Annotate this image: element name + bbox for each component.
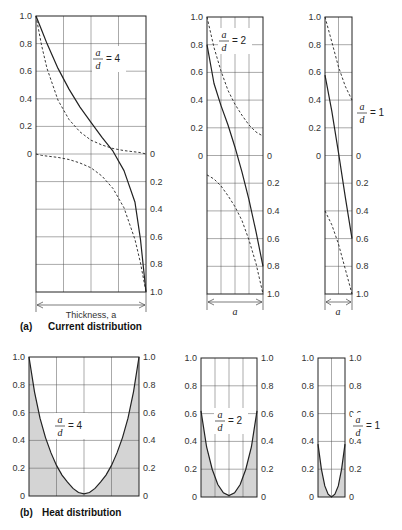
chart-a-1: 1.00.80.60.40.2000.20.40.60.81.0ad= 4: [19, 11, 162, 297]
ratio-numerator: a: [360, 101, 365, 112]
left-tick-label: 0.4: [308, 95, 321, 105]
ratio-numerator: a: [222, 29, 227, 40]
left-tick-label: 0.6: [308, 67, 321, 77]
panel-a-letter: (a): [20, 321, 32, 332]
left-tick-label: 0.4: [12, 435, 25, 445]
ratio-label: ad= 2: [214, 408, 248, 434]
ratio-label: ad= 2: [218, 28, 252, 54]
left-tick-label: 1.0: [301, 353, 314, 363]
left-tick-label: 0.6: [19, 66, 32, 76]
panel-b-letter: (b): [20, 507, 33, 518]
left-tick-label: 0.6: [190, 67, 203, 77]
left-tick-label: 0.8: [308, 40, 321, 50]
panel-b-caption: Heat distribution: [42, 507, 121, 518]
right-tick-label: 0.8: [356, 261, 369, 271]
chart-b-4: 1.00.80.60.40.201.00.80.60.40.20ad= 4: [12, 352, 155, 501]
ratio-value: = 2: [228, 415, 243, 426]
left-tick-label: 0.2: [190, 123, 203, 133]
left-tick-label: 0.2: [184, 464, 197, 474]
left-tick-label: 0.4: [301, 436, 314, 446]
right-tick-label: 0: [143, 491, 148, 501]
right-tick-label: 0.4: [356, 206, 369, 216]
right-tick-label: 0.4: [150, 204, 163, 214]
left-tick-label: 0: [20, 491, 25, 501]
left-tick-label: 0: [27, 149, 32, 159]
left-tick-label: 0.4: [19, 94, 32, 104]
right-tick-label: 1.0: [143, 352, 156, 362]
thickness-dimension-1: [36, 292, 146, 312]
panel-a-caption: Current distribution: [48, 321, 142, 332]
left-tick-label: 0: [192, 492, 197, 502]
right-tick-label: 0.6: [267, 234, 280, 244]
left-tick-label: 0.2: [19, 121, 32, 131]
ratio-numerator: a: [58, 414, 63, 425]
ratio-label: ad= 4: [54, 413, 88, 439]
chart-a-2: 1.00.80.60.40.2000.20.40.60.81.0ad= 2: [190, 12, 279, 299]
right-tick-label: 0.8: [143, 380, 156, 390]
right-tick-label: 0: [349, 492, 354, 502]
ratio-value: = 2: [232, 35, 247, 46]
chart-b-5: 1.00.80.60.40.201.00.80.60.40.20ad= 2: [184, 353, 273, 502]
ratio-value: = 1: [366, 420, 381, 431]
right-tick-label: 0.2: [349, 464, 362, 474]
right-tick-label: 1.0: [356, 289, 369, 299]
ratio-value: = 4: [106, 53, 121, 64]
chart-b-6: 1.00.80.60.40.201.00.80.60.40.20ad= 1: [301, 353, 386, 502]
left-tick-label: 0.4: [184, 436, 197, 446]
right-tick-label: 0.6: [356, 234, 369, 244]
right-tick-label: 0.4: [261, 436, 274, 446]
ratio-value: = 1: [370, 107, 385, 118]
right-tick-label: 0.4: [143, 435, 156, 445]
right-tick-label: 0.6: [261, 409, 274, 419]
right-tick-label: 1.0: [267, 289, 280, 299]
right-tick-label: 0.2: [356, 178, 369, 188]
figure: 1.00.80.60.40.2000.20.40.60.81.0ad= 41.0…: [0, 0, 402, 530]
ratio-label: ad= 1: [356, 100, 390, 126]
left-tick-label: 0.2: [12, 463, 25, 473]
left-tick-label: 0.6: [12, 408, 25, 418]
ratio-numerator: a: [218, 409, 223, 420]
ratio-numerator: a: [96, 47, 101, 58]
left-tick-label: 0.6: [301, 409, 314, 419]
width-label-3: a: [336, 306, 341, 317]
left-tick-label: 0.8: [184, 381, 197, 391]
right-tick-label: 0.6: [150, 232, 163, 242]
ratio-value: = 4: [68, 420, 83, 431]
right-tick-label: 0.8: [150, 259, 163, 269]
left-tick-label: 1.0: [190, 12, 203, 22]
right-tick-label: 0: [267, 151, 272, 161]
right-tick-label: 0.4: [267, 206, 280, 216]
right-tick-label: 0.6: [143, 408, 156, 418]
right-tick-label: 0.8: [349, 381, 362, 391]
right-tick-label: 0: [356, 151, 361, 161]
right-tick-label: 0: [261, 492, 266, 502]
left-tick-label: 0.6: [184, 409, 197, 419]
left-tick-label: 0.8: [19, 39, 32, 49]
right-tick-label: 0: [150, 149, 155, 159]
left-tick-label: 0.8: [12, 380, 25, 390]
left-tick-label: 1.0: [308, 12, 321, 22]
right-tick-label: 0.2: [150, 177, 163, 187]
thickness-label: Thickness, a: [66, 310, 117, 320]
left-tick-label: 0.8: [190, 40, 203, 50]
left-tick-label: 0.4: [190, 95, 203, 105]
ratio-numerator: a: [356, 414, 361, 425]
left-tick-label: 0.2: [308, 123, 321, 133]
right-tick-label: 0.8: [267, 261, 280, 271]
right-tick-label: 1.0: [349, 353, 362, 363]
left-tick-label: 1.0: [12, 352, 25, 362]
left-tick-label: 0.2: [301, 464, 314, 474]
charts-layer: 1.00.80.60.40.2000.20.40.60.81.0ad= 41.0…: [12, 11, 390, 502]
right-tick-label: 0.8: [261, 381, 274, 391]
ratio-label: ad= 4: [92, 46, 126, 72]
left-tick-label: 0.8: [301, 381, 314, 391]
width-label-2: a: [233, 306, 238, 317]
right-tick-label: 1.0: [150, 287, 163, 297]
right-tick-label: 0.2: [143, 463, 156, 473]
chart-a-3: 1.00.80.60.40.2000.20.40.60.81.0ad= 1: [308, 12, 390, 299]
left-tick-label: 1.0: [19, 11, 32, 21]
left-tick-label: 0: [309, 492, 314, 502]
right-tick-label: 0.2: [267, 178, 280, 188]
left-tick-label: 1.0: [184, 353, 197, 363]
ratio-label: ad= 1: [352, 413, 386, 439]
